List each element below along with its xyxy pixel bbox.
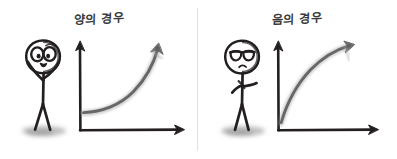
graph-axes-left [76, 41, 185, 134]
panel-left [22, 40, 184, 136]
graph-curve-concave [281, 41, 354, 123]
mouth-happy [40, 63, 46, 66]
stick-figure-sad [225, 41, 259, 130]
eyelid-right-sad [243, 51, 254, 52]
eye-right-happy-pupil [46, 54, 50, 59]
eyelid-left-sad [230, 51, 242, 52]
eye-left-happy [31, 47, 43, 61]
x-axis-left [80, 130, 179, 131]
sketch-illustration: 양의 경우 음의 경우 [0, 0, 397, 159]
torso-right [242, 73, 243, 104]
eye-left-happy-pupil [37, 54, 41, 59]
figure-shadow-left [22, 126, 66, 136]
mouth-frown [239, 65, 246, 67]
panel-right [221, 41, 378, 136]
arm-left-down [232, 85, 242, 92]
stick-figure-happy [26, 40, 60, 129]
leg-left [35, 104, 43, 130]
eye-right-happy [44, 47, 56, 61]
figure-shadow-right [221, 126, 265, 136]
x-axis-right [278, 130, 372, 131]
graph-curve-convex [84, 43, 163, 113]
